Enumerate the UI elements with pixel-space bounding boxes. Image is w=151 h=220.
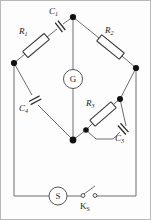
- label-c1: C1: [49, 7, 58, 16]
- label-switch: KS: [80, 202, 90, 211]
- switch-left-terminal[interactable]: [81, 194, 85, 198]
- node-r3-c3-left: [83, 127, 89, 133]
- switch-right-terminal[interactable]: [93, 194, 97, 198]
- resistor-r1: [23, 33, 50, 57]
- label-r1: R1: [19, 27, 28, 36]
- wire-c4-to-bottom-node: [38, 105, 73, 140]
- node-bottom: [70, 137, 77, 144]
- label-c3: C3: [115, 134, 124, 143]
- label-source: S: [49, 192, 67, 201]
- label-r3: R3: [86, 99, 95, 108]
- capacitor-c1: [55, 21, 65, 33]
- switch-blade: [84, 186, 95, 194]
- node-left: [11, 60, 17, 66]
- label-r2: R2: [105, 26, 114, 35]
- wire-c1-to-r1: [47, 29, 57, 37]
- circuit-diagram: R1 C1 R2 C4 R3 C3 G S KS: [0, 0, 151, 220]
- capacitor-c4: [29, 96, 41, 105]
- wire-c3-to-top-junction: [120, 99, 126, 126]
- label-c4: C4: [19, 104, 28, 113]
- node-right: [133, 65, 139, 71]
- wire-top-to-r2: [73, 17, 99, 38]
- wire-inner-right-to-right-node: [120, 68, 136, 99]
- node-top: [70, 14, 76, 20]
- node-inner-right: [117, 96, 123, 102]
- resistor-r2: [97, 35, 125, 59]
- label-galvanometer: G: [64, 75, 82, 84]
- wire-left-node-to-c4: [14, 63, 32, 95]
